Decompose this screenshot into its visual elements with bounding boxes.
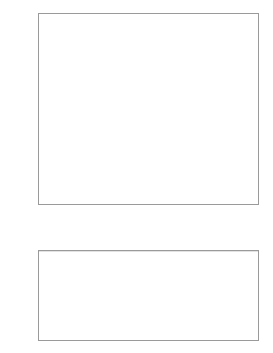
residual-plot-frame xyxy=(38,250,259,341)
scatter-plot-area xyxy=(39,14,258,204)
scatter-panel xyxy=(0,0,273,240)
residual-plot-area xyxy=(39,251,258,340)
zero-reference-line xyxy=(39,251,258,252)
regression-line xyxy=(39,14,258,204)
statistics-figure xyxy=(0,0,273,353)
residual-panel xyxy=(0,240,273,353)
scatter-plot-frame xyxy=(38,13,259,205)
